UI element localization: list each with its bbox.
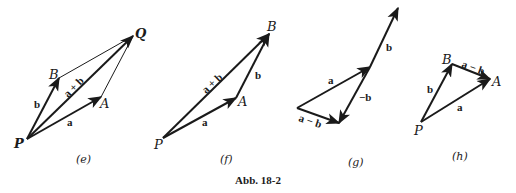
figure-caption: Abb. 18-2 <box>235 174 281 186</box>
point-label-A: A <box>491 74 501 89</box>
vector-label-neg-b: −b <box>359 91 371 103</box>
vector-b-arrow <box>370 8 398 67</box>
panel-g: a b −b a − b (g) <box>297 8 398 169</box>
point-label-A: A <box>237 94 247 109</box>
vector-label-b: b <box>386 41 392 53</box>
panel-label-e: (e) <box>76 153 91 166</box>
vector-label-sum: a + b <box>61 74 86 99</box>
vector-label-a: a <box>328 74 334 86</box>
vector-label-b: b <box>34 98 40 110</box>
vector-label-a: a <box>457 101 463 113</box>
point-label-P: P <box>13 136 25 151</box>
panel-h: B A P b a a − b (h) <box>413 52 501 163</box>
vector-label-b: b <box>427 83 433 95</box>
point-label-P: P <box>153 137 163 152</box>
vector-addition-figure: Q B A P b a a + b (e) B A P b a a + b (f… <box>0 0 516 193</box>
panel-e: Q B A P b a a + b (e) <box>13 26 147 166</box>
vector-label-b: b <box>255 69 261 81</box>
point-label-B: B <box>441 52 452 67</box>
point-label-B: B <box>266 19 277 34</box>
panel-f: B A P b a a + b (f) <box>153 19 277 166</box>
point-label-A: A <box>99 96 109 111</box>
vector-label-sum: a + b <box>199 71 224 96</box>
vector-label-a: a <box>202 116 208 128</box>
panel-label-g: (g) <box>348 156 364 169</box>
point-label-Q: Q <box>135 26 147 41</box>
point-label-P: P <box>413 123 423 138</box>
vector-a-arrow <box>163 98 236 138</box>
vector-b-arrow <box>236 34 269 98</box>
vector-label-diff: a − b <box>297 111 323 130</box>
panel-label-f: (f) <box>220 153 233 166</box>
panel-label-h: (h) <box>452 150 468 163</box>
vector-label-diff: a − b <box>460 58 486 77</box>
vector-label-a: a <box>67 116 73 128</box>
point-label-B: B <box>48 67 59 82</box>
